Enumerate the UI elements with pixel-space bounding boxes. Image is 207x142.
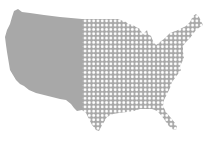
us-map-graphic (0, 0, 207, 142)
land-mass (0, 0, 207, 142)
east-region-dotted (82, 0, 207, 142)
us-map (0, 0, 207, 142)
west-region-solid (0, 0, 82, 142)
